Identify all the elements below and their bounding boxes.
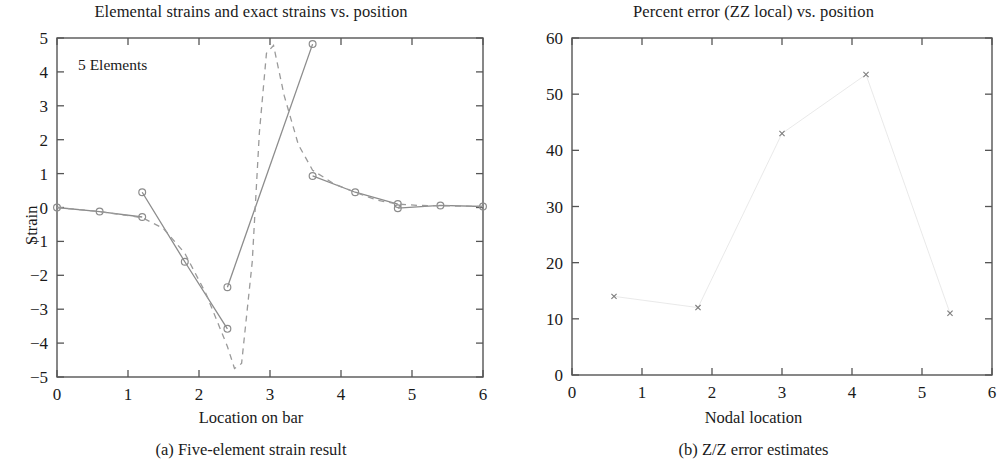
y-tick-label: −3 (30, 300, 48, 319)
figure-container: Elemental strains and exact strains vs. … (0, 0, 1005, 472)
panel-b-plot: 01234560102030405060 (502, 0, 1005, 472)
series-line-elemental (313, 176, 398, 204)
series-line-elemental (142, 192, 227, 329)
data-point-marker (863, 72, 868, 77)
x-tick-label: 2 (708, 383, 717, 402)
y-tick-label: 50 (546, 85, 563, 104)
data-point-marker (779, 131, 784, 136)
data-point-marker (947, 311, 952, 316)
y-tick-label: 20 (546, 254, 563, 273)
y-tick-label: 40 (546, 141, 563, 160)
plot-frame (572, 38, 992, 375)
x-tick-label: 6 (988, 383, 997, 402)
x-tick-label: 0 (53, 385, 62, 404)
y-tick-label: 5 (40, 29, 49, 48)
y-tick-label: 60 (546, 29, 563, 48)
series-trace (614, 75, 950, 314)
y-tick-label: 4 (40, 63, 49, 82)
x-tick-label: 1 (638, 383, 647, 402)
panel-b: Percent error (ZZ local) vs. position 01… (502, 0, 1005, 472)
y-tick-label: 10 (546, 310, 563, 329)
y-tick-label: 1 (40, 165, 49, 184)
x-tick-label: 1 (124, 385, 133, 404)
x-tick-label: 4 (848, 383, 857, 402)
x-tick-label: 0 (568, 383, 577, 402)
panel-a-y-axis-label: Strain (22, 206, 42, 245)
x-tick-label: 4 (337, 385, 346, 404)
panel-a: Elemental strains and exact strains vs. … (0, 0, 502, 472)
y-tick-label: −5 (30, 368, 48, 387)
x-tick-label: 5 (918, 383, 927, 402)
y-tick-label: −2 (30, 266, 48, 285)
panel-b-x-axis-label: Nodal location (502, 408, 1005, 428)
panel-a-x-axis-label: Location on bar (0, 408, 502, 428)
plot-frame (57, 38, 483, 377)
x-tick-label: 3 (266, 385, 275, 404)
series-line-elemental (227, 44, 312, 287)
x-tick-label: 3 (778, 383, 787, 402)
x-tick-label: 2 (195, 385, 204, 404)
y-tick-label: 2 (40, 131, 49, 150)
x-tick-label: 6 (479, 385, 488, 404)
panel-a-plot: 0123456−5−4−3−2−1012345 (0, 0, 502, 472)
y-tick-label: −4 (30, 334, 49, 353)
panel-b-caption: (b) Z/Z error estimates (502, 440, 1005, 460)
y-tick-label: 0 (555, 366, 564, 385)
y-tick-label: 30 (546, 198, 563, 217)
panel-a-caption: (a) Five-element strain result (0, 440, 502, 460)
y-tick-label: 3 (40, 97, 49, 116)
panel-a-annotation: 5 Elements (78, 56, 147, 74)
x-tick-label: 5 (408, 385, 417, 404)
